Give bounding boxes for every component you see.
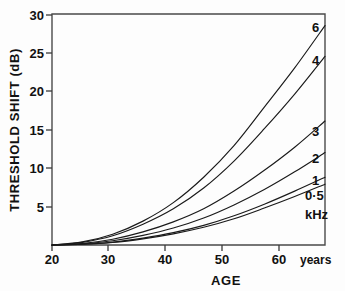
series-label-4khz: 4 — [312, 53, 320, 68]
threshold-shift-vs-age-chart: 30 25 20 15 10 5 20 30 40 50 60 years AG… — [0, 0, 345, 291]
data-curves — [52, 26, 325, 245]
curve-4khz — [52, 56, 325, 245]
x-axis-unit-label: years — [300, 253, 332, 267]
x-tick-label-30: 30 — [101, 252, 115, 267]
x-axis-ticks — [52, 245, 279, 251]
x-axis-tick-labels: 20 30 40 50 60 years — [45, 252, 332, 267]
plot-frame — [52, 14, 325, 245]
series-label-1khz: 1 — [312, 173, 319, 188]
x-tick-label-50: 50 — [215, 252, 229, 267]
curve-3khz — [52, 121, 325, 245]
series-label-3khz: 3 — [312, 124, 319, 139]
series-label-6khz: 6 — [312, 20, 319, 35]
y-axis-ticks — [46, 15, 52, 207]
y-tick-label-10: 10 — [30, 161, 44, 176]
figure-container: 30 25 20 15 10 5 20 30 40 50 60 years AG… — [0, 0, 345, 291]
y-tick-label-5: 5 — [37, 200, 44, 215]
y-axis-title: THRESHOLD SHIFT (dB) — [7, 48, 22, 212]
axis-frame-rect — [52, 14, 325, 245]
series-label-0p5khz: 0·5 — [305, 188, 324, 203]
curve-6khz — [52, 26, 325, 245]
y-tick-label-30: 30 — [30, 8, 44, 23]
x-tick-label-40: 40 — [158, 252, 172, 267]
x-axis-title: AGE — [211, 273, 241, 288]
x-tick-label-60: 60 — [272, 252, 286, 267]
y-axis-tick-labels: 30 25 20 15 10 5 — [30, 8, 44, 215]
series-unit-label-khz: kHz — [305, 207, 329, 222]
curve-1khz — [52, 177, 325, 245]
curve-0p5khz — [52, 184, 325, 245]
x-tick-label-20: 20 — [45, 252, 59, 267]
series-label-2khz: 2 — [312, 151, 319, 166]
y-tick-label-20: 20 — [30, 84, 44, 99]
y-tick-label-15: 15 — [30, 123, 44, 138]
y-tick-label-25: 25 — [30, 46, 44, 61]
